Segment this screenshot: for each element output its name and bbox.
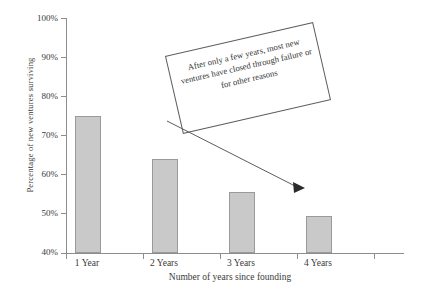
x-tick-label-1-year: 1 Year: [52, 258, 122, 268]
y-tick-label-70: 70%: [14, 130, 58, 140]
bar-chart: Percentage of new ventures surviving 100…: [0, 0, 426, 292]
x-tick-label-3-years: 3 Years: [206, 258, 276, 268]
y-axis-line: [66, 18, 67, 254]
x-tick-label-2-years: 2 Years: [129, 258, 199, 268]
bar-4-years[interactable]: [306, 216, 332, 253]
x-tick-mark-4: [374, 254, 375, 259]
callout-text: After only a few years, most new venture…: [176, 33, 317, 100]
y-tick-label-100: 100%: [14, 13, 58, 23]
bar-2-years[interactable]: [152, 159, 178, 253]
y-tick-label-90: 90%: [14, 52, 58, 62]
x-axis-line: [66, 253, 404, 254]
callout-box: After only a few years, most new venture…: [165, 22, 331, 134]
arrowhead-icon: [293, 182, 305, 193]
y-tick-label-40: 40%: [14, 247, 58, 257]
callout-arrow: [0, 0, 426, 292]
y-tick-label-60: 60%: [14, 169, 58, 179]
y-tick-label-80: 80%: [14, 91, 58, 101]
y-tick-label-50: 50%: [14, 208, 58, 218]
x-tick-label-4-years: 4 Years: [283, 258, 353, 268]
x-axis-title: Number of years since founding: [120, 272, 340, 282]
bar-3-years[interactable]: [229, 192, 255, 253]
bar-1-year[interactable]: [75, 116, 101, 253]
